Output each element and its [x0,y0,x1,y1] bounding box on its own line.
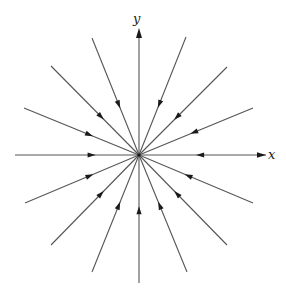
ray-247deg [92,155,139,272]
ray-45deg [139,67,227,155]
ray-112deg [92,38,139,155]
ray-157deg [24,108,139,155]
y-axis-label: y [132,11,141,26]
ray-22deg-arrow-icon [190,128,198,133]
origin-point [137,153,140,156]
phase-portrait-diagram: y x [0,0,286,295]
ray-202deg-arrow-icon [85,174,93,180]
ray-180deg-arrow-icon [88,152,96,157]
ray-67deg-arrow-icon [158,99,163,107]
y-axis-arrow-icon [136,28,142,38]
ray-270deg-arrow-icon [136,206,141,214]
ray-0deg-arrow-icon [196,152,204,157]
ray-135deg [51,66,139,155]
trajectory-rays [15,37,266,283]
ray-112deg-arrow-icon [115,100,120,108]
ray-247deg-arrow-icon [115,202,120,210]
ray-225deg [51,155,139,245]
axes: y x [132,11,276,162]
ray-292deg-arrow-icon [158,202,163,210]
ray-202deg [25,155,139,203]
ray-337deg-arrow-icon [185,174,193,180]
x-axis-label: x [268,147,276,162]
ray-67deg [139,37,186,155]
x-axis-arrow-icon [257,152,266,158]
ray-315deg [139,155,227,245]
ray-157deg-arrow-icon [85,131,93,136]
